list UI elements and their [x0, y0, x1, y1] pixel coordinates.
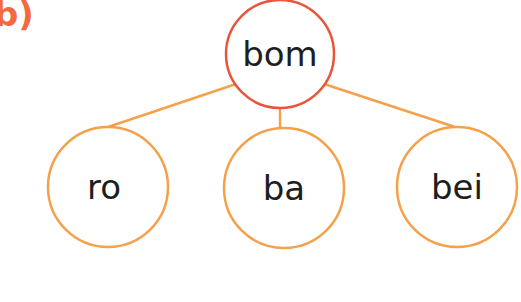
syllable-tree-diagram: bom ro ba bei — [0, 0, 521, 302]
tree-node-ba: ba — [224, 128, 344, 248]
edge-root-ro — [108, 84, 236, 127]
tree-node-root: bom — [226, 0, 334, 108]
node-label-ro: ro — [87, 167, 121, 207]
tree-node-bei: bei — [397, 127, 517, 247]
node-label-bei: bei — [431, 167, 483, 207]
edge-root-bei — [324, 84, 455, 127]
tree-node-ro: ro — [48, 127, 168, 247]
node-label-ba: ba — [263, 168, 305, 208]
node-label-root: bom — [242, 34, 318, 74]
